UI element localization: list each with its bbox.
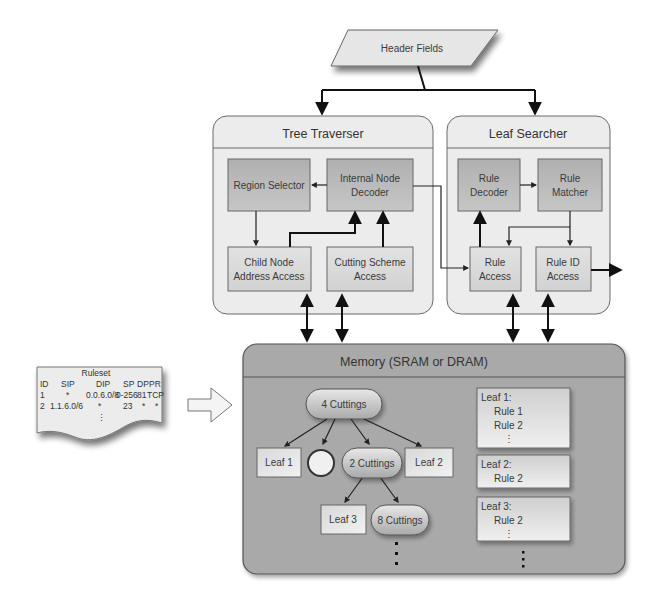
svg-text:PR: PR xyxy=(149,379,161,389)
leaf-searcher-panel: Leaf Searcher Rule Decoder Rule Matcher … xyxy=(447,116,620,314)
svg-text:Child Node: Child Node xyxy=(244,257,294,268)
svg-text:Access: Access xyxy=(547,271,579,282)
svg-text:Rule: Rule xyxy=(560,173,581,184)
svg-text:Leaf 3:: Leaf 3: xyxy=(481,501,512,512)
svg-text:Rule 2: Rule 2 xyxy=(494,515,523,526)
ruleset-document: Ruleset ID SIP DIP SP DP PR 1 * 0.0.6.0/… xyxy=(37,367,164,440)
svg-text:⋮: ⋮ xyxy=(504,433,514,444)
svg-text:Leaf 2: Leaf 2 xyxy=(415,457,443,468)
tree-leaf-3-node: Leaf 3 xyxy=(321,505,366,534)
leaf-rules-more-ellipsis xyxy=(522,551,525,568)
leaf-rules-box-3: Leaf 3: Rule 2 ⋮ xyxy=(477,497,570,541)
rule-matcher-block: Rule Matcher xyxy=(538,159,602,211)
svg-text:SIP: SIP xyxy=(61,379,75,389)
memory-panel: Memory (SRAM or DRAM) 4 Cuttings Leaf 1 … xyxy=(243,344,625,574)
svg-text:8 Cuttings: 8 Cuttings xyxy=(377,515,422,526)
svg-text:DP: DP xyxy=(137,379,149,389)
internal-node-decoder-block: Internal Node Decoder xyxy=(327,159,413,211)
svg-text:Leaf 1: Leaf 1 xyxy=(265,457,293,468)
svg-text:23: 23 xyxy=(123,401,133,411)
tree-traverser-title: Tree Traverser xyxy=(282,127,364,141)
memory-title: Memory (SRAM or DRAM) xyxy=(340,355,488,369)
tree-traverser-panel: Tree Traverser Region Selector Internal … xyxy=(213,116,433,314)
architecture-diagram: Header Fields Tree Traverser Region Sele… xyxy=(0,0,647,608)
svg-text:81: 81 xyxy=(137,390,147,400)
svg-text:Rule: Rule xyxy=(479,173,500,184)
rule-id-access-block: Rule ID Access xyxy=(536,247,591,291)
tree-empty-node xyxy=(308,450,334,476)
header-split-arrows xyxy=(322,66,535,113)
tree-8-cuttings-node: 8 Cuttings xyxy=(371,505,429,535)
leaf-rules-box-2: Leaf 2: Rule 2 xyxy=(477,455,570,488)
svg-text:Matcher: Matcher xyxy=(552,187,589,198)
svg-text:Leaf 1:: Leaf 1: xyxy=(481,392,512,403)
rule-decoder-block: Rule Decoder xyxy=(458,159,520,211)
svg-text:Leaf 3: Leaf 3 xyxy=(329,514,357,525)
svg-text:DIP: DIP xyxy=(96,379,111,389)
svg-text:2: 2 xyxy=(40,401,45,411)
cutting-scheme-access-block: Cutting Scheme Access xyxy=(327,247,413,291)
ruleset-row-2: 2 1.1.6.0/6 * 23 * * xyxy=(40,401,159,411)
svg-text:0-256: 0-256 xyxy=(116,390,138,400)
svg-text:1: 1 xyxy=(40,390,45,400)
svg-text:2 Cuttings: 2 Cuttings xyxy=(349,458,394,469)
rule-access-block: Rule Access xyxy=(470,247,521,291)
svg-text:Decoder: Decoder xyxy=(470,187,508,198)
ruleset-more: ⋮ xyxy=(97,413,106,423)
region-selector-block: Region Selector xyxy=(228,159,310,211)
svg-text:TCP: TCP xyxy=(147,390,164,400)
leaf-rules-box-1: Leaf 1: Rule 1 Rule 2 ⋮ xyxy=(477,388,570,448)
svg-text:Rule 2: Rule 2 xyxy=(494,420,523,431)
svg-text:1.1.6.0/6: 1.1.6.0/6 xyxy=(50,401,83,411)
child-node-address-access-block: Child Node Address Access xyxy=(228,247,311,291)
leaf-searcher-title: Leaf Searcher xyxy=(489,127,568,141)
svg-text:Access: Access xyxy=(479,271,511,282)
header-fields-node: Header Fields xyxy=(331,30,498,66)
svg-text:ID: ID xyxy=(40,379,49,389)
svg-text:⋮: ⋮ xyxy=(504,528,514,539)
tree-2-cuttings-node: 2 Cuttings xyxy=(342,448,402,478)
tree-leaf-2-node: Leaf 2 xyxy=(405,448,453,477)
svg-text:Internal Node: Internal Node xyxy=(340,173,400,184)
tree-leaf-1-node: Leaf 1 xyxy=(257,448,301,477)
svg-text:Rule: Rule xyxy=(485,257,506,268)
svg-text:4 Cuttings: 4 Cuttings xyxy=(321,399,366,410)
svg-text:Decoder: Decoder xyxy=(351,187,389,198)
ruleset-title: Ruleset xyxy=(82,368,111,378)
svg-text:Rule ID: Rule ID xyxy=(546,257,579,268)
svg-text:SP: SP xyxy=(123,379,135,389)
svg-text:Leaf 2:: Leaf 2: xyxy=(481,459,512,470)
header-fields-label: Header Fields xyxy=(381,43,443,54)
svg-text:Rule 1: Rule 1 xyxy=(494,406,523,417)
svg-text:Access: Access xyxy=(354,271,386,282)
svg-text:Cutting Scheme: Cutting Scheme xyxy=(334,257,406,268)
ruleset-to-memory-arrow xyxy=(188,388,232,422)
tree-root-node: 4 Cuttings xyxy=(306,389,382,419)
svg-text:Region Selector: Region Selector xyxy=(233,180,305,191)
svg-text:Rule 2: Rule 2 xyxy=(494,473,523,484)
svg-text:Address Access: Address Access xyxy=(233,271,304,282)
svg-text:0.0.6.0/8: 0.0.6.0/8 xyxy=(86,390,119,400)
